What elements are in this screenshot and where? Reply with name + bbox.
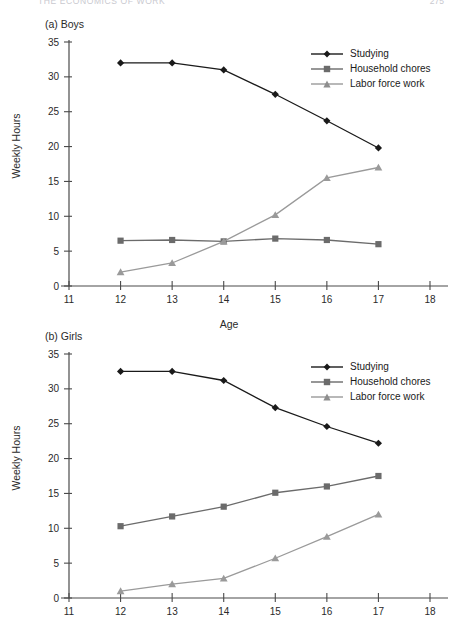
svg-text:17: 17 <box>373 606 385 617</box>
legend-label-labor: Labor force work <box>350 78 424 90</box>
chart-panel-boys: (a) Boys Weekly Hours 051015202530351112… <box>0 18 458 318</box>
svg-text:16: 16 <box>321 294 333 305</box>
legend-key-triangle-icon <box>310 78 344 90</box>
svg-text:17: 17 <box>373 294 385 305</box>
svg-text:13: 13 <box>167 294 179 305</box>
legend-item-household: Household chores <box>310 374 431 389</box>
legend-label-household: Household chores <box>350 63 431 75</box>
legend-girls: Studying Household chores Labor force wo… <box>310 359 431 404</box>
svg-text:11: 11 <box>64 294 75 305</box>
svg-text:14: 14 <box>218 294 230 305</box>
svg-text:20: 20 <box>48 453 60 464</box>
svg-text:15: 15 <box>48 488 60 499</box>
y-axis-title-girls: Weekly Hours <box>10 408 22 508</box>
svg-text:15: 15 <box>270 294 282 305</box>
running-title: THE ECONOMICS OF WORK <box>38 0 165 6</box>
legend-key-triangle-icon <box>310 391 344 403</box>
legend-key-diamond-icon <box>310 361 344 373</box>
legend-label-household: Household chores <box>350 376 431 388</box>
svg-text:35: 35 <box>48 349 60 360</box>
legend-key-diamond-icon <box>310 48 344 60</box>
panel-label-boys: (a) Boys <box>45 18 84 30</box>
y-axis-title-boys: Weekly Hours <box>10 96 22 196</box>
svg-text:25: 25 <box>48 106 60 117</box>
svg-text:35: 35 <box>48 37 60 48</box>
svg-text:18: 18 <box>424 294 436 305</box>
svg-text:30: 30 <box>48 383 60 394</box>
legend-item-studying: Studying <box>310 359 431 374</box>
svg-text:12: 12 <box>115 606 127 617</box>
svg-text:20: 20 <box>48 141 60 152</box>
x-axis-title-boys: Age <box>0 318 458 330</box>
panel-label-girls: (b) Girls <box>45 330 82 342</box>
legend-key-square-icon <box>310 376 344 388</box>
legend-item-studying: Studying <box>310 46 431 61</box>
page-header: THE ECONOMICS OF WORK 275 <box>0 0 458 10</box>
svg-text:18: 18 <box>424 606 436 617</box>
legend-label-studying: Studying <box>350 48 389 60</box>
svg-text:16: 16 <box>321 606 333 617</box>
page-number: 275 <box>430 0 444 6</box>
svg-text:13: 13 <box>167 606 179 617</box>
legend-item-household: Household chores <box>310 61 431 76</box>
svg-text:5: 5 <box>53 246 59 257</box>
legend-boys: Studying Household chores Labor force wo… <box>310 46 431 91</box>
svg-text:15: 15 <box>270 606 282 617</box>
legend-label-labor: Labor force work <box>350 391 424 403</box>
svg-text:15: 15 <box>48 176 60 187</box>
chart-panel-girls: (b) Girls Weekly Hours 05101520253035111… <box>0 330 458 629</box>
svg-text:12: 12 <box>115 294 127 305</box>
svg-text:0: 0 <box>53 593 59 604</box>
svg-text:10: 10 <box>48 211 60 222</box>
legend-item-labor: Labor force work <box>310 389 431 404</box>
svg-text:5: 5 <box>53 558 59 569</box>
svg-text:30: 30 <box>48 71 60 82</box>
legend-key-square-icon <box>310 63 344 75</box>
svg-text:14: 14 <box>218 606 230 617</box>
svg-text:0: 0 <box>53 281 59 292</box>
svg-text:11: 11 <box>64 606 75 617</box>
svg-text:10: 10 <box>48 523 60 534</box>
legend-label-studying: Studying <box>350 361 389 373</box>
svg-text:25: 25 <box>48 418 60 429</box>
legend-item-labor: Labor force work <box>310 76 431 91</box>
